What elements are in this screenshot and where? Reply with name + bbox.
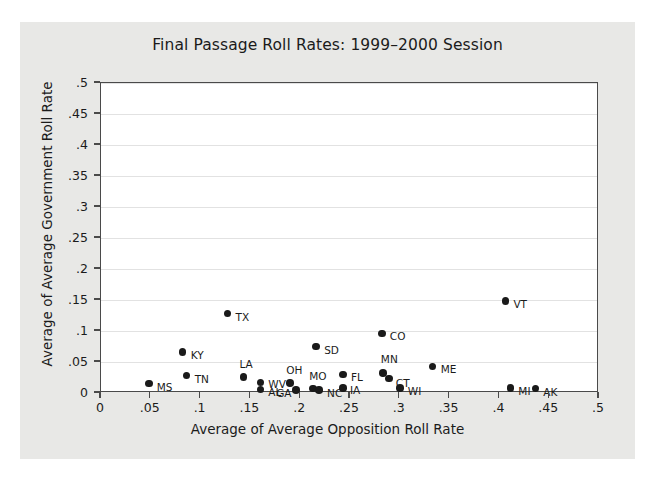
scatter-point-label: MO	[309, 371, 326, 382]
x-tick-mark	[448, 392, 449, 398]
x-tick-mark	[249, 392, 250, 398]
scatter-point	[507, 384, 515, 392]
gridline	[101, 362, 597, 363]
x-tick-mark	[299, 392, 300, 398]
x-tick-mark	[398, 392, 399, 398]
y-axis-title: Average of Average Government Roll Rate	[39, 69, 55, 379]
x-tick-label: .15	[239, 400, 259, 415]
x-axis-title: Average of Average Opposition Roll Rate	[20, 421, 635, 437]
scatter-point	[224, 310, 232, 318]
gridline	[101, 114, 597, 115]
y-tick-label: .2	[76, 261, 88, 276]
x-tick-label: .5	[592, 400, 604, 415]
scatter-point-label: TX	[235, 312, 249, 323]
gridline	[101, 238, 597, 239]
plot-area: MSKYTNLAWVALTXOHGAMONCSDIAFLCOMNCTWIMEVT…	[100, 82, 598, 392]
y-tick-label: .1	[76, 323, 88, 338]
scatter-point-label: ME	[441, 364, 457, 375]
scatter-point	[315, 386, 323, 394]
scatter-point-label: AK	[543, 387, 557, 398]
x-tick-mark	[99, 392, 100, 398]
y-tick-mark	[94, 236, 100, 237]
scatter-point-label: VT	[513, 299, 527, 310]
scatter-point	[240, 373, 248, 381]
y-tick-mark	[94, 360, 100, 361]
y-tick-label: .25	[68, 230, 88, 245]
scatter-point	[257, 386, 265, 394]
scatter-point-label: WI	[408, 386, 421, 397]
scatter-point-label: MI	[518, 386, 530, 397]
x-tick-mark	[348, 392, 349, 398]
y-tick-mark	[94, 267, 100, 268]
x-tick-mark	[199, 392, 200, 398]
y-tick-mark	[94, 298, 100, 299]
gridline	[101, 176, 597, 177]
x-tick-label: .05	[140, 400, 160, 415]
y-tick-label: .15	[68, 292, 88, 307]
y-tick-label: 0	[80, 385, 88, 400]
chart-title: Final Passage Roll Rates: 1999–2000 Sess…	[20, 36, 635, 54]
y-tick-label: .35	[68, 168, 88, 183]
scatter-point	[339, 371, 347, 379]
scatter-point	[339, 384, 347, 392]
y-tick-mark	[94, 174, 100, 175]
scatter-point	[312, 343, 320, 351]
scatter-point	[183, 372, 191, 380]
figure-panel: Final Passage Roll Rates: 1999–2000 Sess…	[20, 22, 635, 459]
scatter-point	[502, 297, 510, 305]
scatter-point-label: MS	[157, 382, 173, 393]
gridline	[101, 145, 597, 146]
y-tick-label: .4	[76, 137, 88, 152]
scatter-point-label: SD	[324, 345, 339, 356]
gridline	[101, 83, 597, 84]
scatter-point-label: IA	[350, 385, 360, 396]
x-tick-label: .45	[538, 400, 558, 415]
scatter-point	[429, 363, 437, 371]
x-tick-label: .35	[439, 400, 459, 415]
scatter-point-label: MN	[381, 354, 398, 365]
scatter-point-label: FL	[351, 372, 363, 383]
x-tick-mark	[597, 392, 598, 398]
y-tick-label: .5	[76, 75, 88, 90]
scatter-point	[145, 380, 153, 388]
x-tick-mark	[149, 392, 150, 398]
x-tick-label: 0	[96, 400, 104, 415]
y-tick-mark	[94, 112, 100, 113]
x-tick-label: .4	[492, 400, 504, 415]
x-tick-label: .2	[293, 400, 305, 415]
scatter-point-label: KY	[191, 350, 204, 361]
scatter-point-label: CO	[390, 331, 406, 342]
gridline	[101, 269, 597, 270]
scatter-point	[396, 384, 404, 392]
y-tick-mark	[94, 391, 100, 392]
scatter-point	[532, 385, 540, 393]
x-tick-label: .3	[393, 400, 405, 415]
y-tick-mark	[94, 329, 100, 330]
y-tick-label: .3	[76, 199, 88, 214]
x-tick-label: .1	[194, 400, 206, 415]
y-tick-mark	[94, 205, 100, 206]
x-tick-label: .25	[339, 400, 359, 415]
gridline	[101, 331, 597, 332]
y-tick-mark	[94, 143, 100, 144]
y-tick-label: .45	[68, 106, 88, 121]
scatter-point-label: TN	[195, 374, 209, 385]
x-tick-mark	[498, 392, 499, 398]
y-tick-label: .05	[68, 354, 88, 369]
scatter-point-label: OH	[286, 365, 302, 376]
y-tick-mark	[94, 81, 100, 82]
scatter-point	[179, 348, 187, 356]
scatter-point	[385, 375, 393, 383]
scatter-point-label: LA	[239, 359, 252, 370]
scatter-point-label: GA	[276, 388, 291, 399]
x-tick-mark	[548, 392, 549, 398]
scatter-point	[378, 330, 386, 338]
gridline	[101, 207, 597, 208]
